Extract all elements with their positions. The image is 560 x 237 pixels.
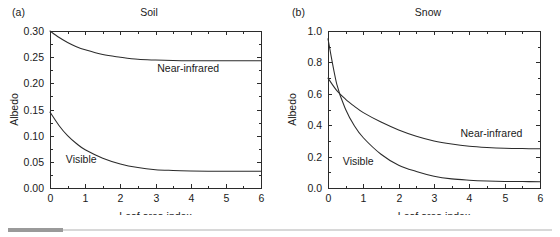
y-tick-label: 0.30: [24, 25, 45, 37]
x-tick-label: 3: [154, 192, 160, 204]
x-tick-label: 0: [48, 192, 54, 204]
x-tick-label: 2: [118, 192, 124, 204]
y-tick-label: 0.6: [307, 88, 322, 100]
y-tick-label: 0.10: [24, 130, 45, 142]
figure-container: (a) Soil 01234560.000.050.100.150.200.25…: [0, 0, 560, 237]
y-axis-title: Albedo: [8, 93, 20, 126]
plot-area-soil: 01234560.000.050.100.150.200.250.30Near-…: [0, 0, 280, 215]
y-axis-title: Albedo: [286, 93, 298, 126]
x-tick-label: 5: [224, 192, 230, 204]
x-tick-label: 5: [503, 192, 509, 204]
series-label-visible: Visible: [66, 153, 97, 165]
x-axis-title: Leaf area index: [398, 210, 471, 215]
y-tick-label: 0.4: [307, 119, 322, 131]
x-tick-label: 4: [467, 192, 473, 204]
series-label-near-infrared: Near-infrared: [461, 127, 523, 139]
x-tick-label: 2: [397, 192, 403, 204]
y-tick-label: 0.0: [307, 182, 322, 194]
x-tick-label: 1: [361, 192, 367, 204]
footer-rule: [0, 228, 560, 232]
x-tick-label: 0: [326, 192, 332, 204]
x-tick-label: 3: [432, 192, 438, 204]
x-tick-label: 6: [259, 192, 265, 204]
x-tick-label: 6: [538, 192, 544, 204]
x-axis-title: Leaf area index: [119, 210, 192, 215]
x-tick-label: 1: [83, 192, 89, 204]
chart-panel-soil: (a) Soil 01234560.000.050.100.150.200.25…: [0, 0, 280, 215]
y-tick-label: 0.05: [24, 156, 45, 168]
y-tick-label: 1.0: [307, 25, 322, 37]
footer-rule-accent: [8, 228, 63, 232]
plot-area-snow: 01234560.00.20.40.60.81.0VisibleNear-inf…: [280, 0, 560, 215]
y-tick-label: 0.20: [24, 77, 45, 89]
series-line-near-infrared: [50, 31, 261, 61]
footer-rule-light: [8, 229, 552, 231]
y-tick-label: 0.15: [24, 104, 45, 116]
series-label-near-infrared: Near-infrared: [157, 62, 219, 74]
chart-panel-snow: (b) Snow 01234560.00.20.40.60.81.0Visibl…: [280, 0, 560, 215]
y-tick-label: 0.00: [24, 182, 45, 194]
y-tick-label: 0.8: [307, 56, 322, 68]
series-label-visible: Visible: [343, 155, 374, 167]
y-tick-label: 0.2: [307, 151, 322, 163]
y-tick-label: 0.25: [24, 51, 45, 63]
x-tick-label: 4: [189, 192, 195, 204]
